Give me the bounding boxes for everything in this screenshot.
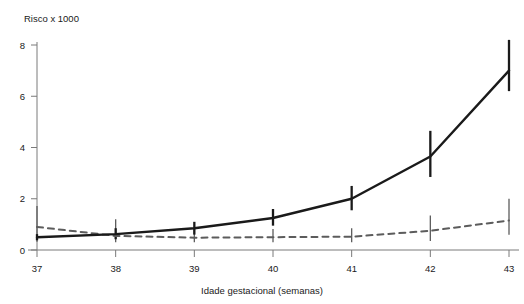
x-tick-label-40: 40 <box>268 263 279 274</box>
x-axis-title: Idade gestacional (semanas) <box>201 285 323 296</box>
y-tick-label-2: 2 <box>20 193 25 204</box>
solid-series-errorbars <box>37 40 509 240</box>
y-tick-label-4: 4 <box>20 142 25 153</box>
x-tick-label-41: 41 <box>346 263 357 274</box>
chart-canvas: Risco x 1000 02468 37383940414243 Idade … <box>0 0 524 304</box>
x-tick-label-38: 38 <box>110 263 121 274</box>
x-tick-label-37: 37 <box>32 263 43 274</box>
y-tick-label-8: 8 <box>20 40 25 51</box>
x-axis-ticks: 37383940414243 <box>32 250 515 274</box>
y-axis-title: Risco x 1000 <box>24 13 79 24</box>
y-tick-label-0: 0 <box>20 245 25 256</box>
x-tick-label-43: 43 <box>504 263 515 274</box>
y-axis-ticks: 02468 <box>20 40 37 256</box>
x-tick-label-39: 39 <box>189 263 200 274</box>
x-tick-label-42: 42 <box>425 263 436 274</box>
risk-line-chart: Risco x 1000 02468 37383940414243 Idade … <box>0 0 524 304</box>
y-tick-label-6: 6 <box>20 91 25 102</box>
